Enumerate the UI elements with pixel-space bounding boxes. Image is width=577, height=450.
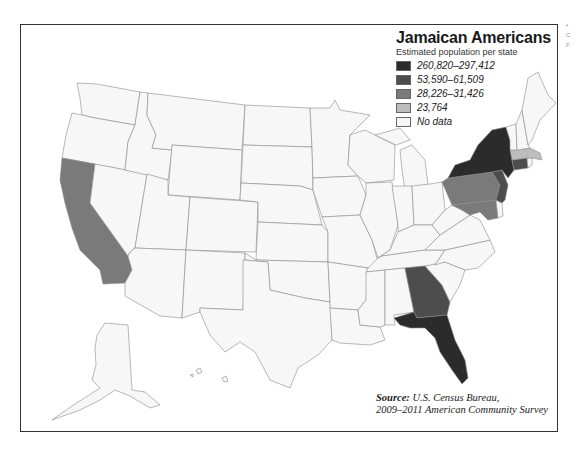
legend-label: 260,820–297,412 xyxy=(417,60,495,71)
state-new-mexico xyxy=(182,250,245,318)
legend-title: Jamaican Americans xyxy=(396,29,556,46)
legend-label: 53,590–61,509 xyxy=(417,74,484,85)
legend-swatch xyxy=(396,103,411,113)
legend-swatch xyxy=(396,75,411,85)
legend-item: No data xyxy=(396,115,556,128)
state-rhode-island xyxy=(527,158,532,168)
state-alaska xyxy=(52,323,160,420)
state-colorado xyxy=(186,197,258,252)
source-citation: Source: U.S. Census Bureau, 2009–2011 Am… xyxy=(376,392,548,416)
legend-subtitle: Estimated population per state xyxy=(396,47,556,58)
legend-swatch xyxy=(396,61,411,71)
legend-item: 260,820–297,412 xyxy=(396,59,556,72)
edge-artifact-text: ▪ xyxy=(566,20,570,30)
edge-artifact-text: F xyxy=(566,40,570,50)
legend-label: 23,764 xyxy=(417,102,448,113)
legend-label: 28,226–31,426 xyxy=(417,88,484,99)
state-arizona xyxy=(125,248,186,318)
legend-item: 28,226–31,426 xyxy=(396,87,556,100)
state-kansas xyxy=(256,222,328,262)
legend-swatch xyxy=(396,89,411,99)
state-iowa xyxy=(313,176,366,217)
source-line-1: U.S. Census Bureau, xyxy=(412,392,499,403)
legend-item: 23,764 xyxy=(396,101,556,114)
state-north-dakota xyxy=(243,105,312,147)
map-legend: Jamaican Americans Estimated population … xyxy=(396,29,556,128)
edge-artifacts: ▪ C F xyxy=(566,20,570,50)
state-wyoming xyxy=(168,145,242,200)
source-line-2: 2009–2011 American Community Survey xyxy=(376,404,548,416)
edge-artifact-text: C xyxy=(566,30,570,40)
state-new-york xyxy=(448,127,514,178)
legend-label: No data xyxy=(417,116,452,127)
state-hawaii xyxy=(190,368,228,382)
state-montana xyxy=(147,93,245,150)
source-prefix: Source: xyxy=(376,392,410,403)
state-florida xyxy=(394,312,468,384)
legend-swatch xyxy=(396,117,411,127)
legend-item: 53,590–61,509 xyxy=(396,73,556,86)
state-arkansas xyxy=(328,262,368,310)
